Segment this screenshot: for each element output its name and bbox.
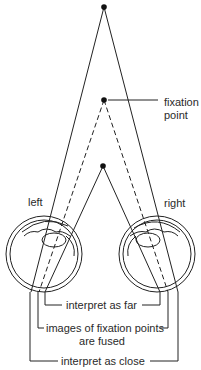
far-point-dot: [101, 4, 107, 10]
fused-label-line2: are fused: [72, 335, 132, 347]
fused-label-line1: images of fixation points: [46, 322, 158, 334]
fixation-label-line1: fixation: [164, 96, 199, 108]
left-eye: [6, 216, 82, 292]
interpret-far-label: interpret as far: [66, 299, 137, 311]
fixation-ray-left: [39, 100, 104, 292]
far-bracket: [45, 292, 62, 305]
fixation-point-dot: [101, 97, 107, 103]
right-eye-label: right: [164, 197, 185, 209]
right-eye: [119, 216, 195, 292]
far-ray-left: [31, 7, 104, 292]
left-eye-label: left: [28, 196, 43, 208]
fixation-label-line2: point: [164, 109, 188, 121]
near-point-dot: [100, 163, 106, 169]
near-ray-left: [45, 166, 103, 292]
far-bracket-right: [142, 292, 160, 305]
interpret-close-label: interpret as close: [61, 355, 145, 367]
binocular-vision-diagram: [0, 0, 201, 370]
fused-bracket-left: [38, 292, 44, 328]
